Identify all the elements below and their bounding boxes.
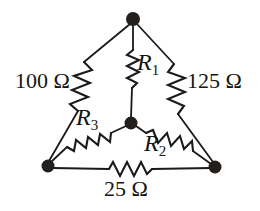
bottom-left-node [42,160,55,173]
wire-bottomleft-to-bottom-resistor [53,168,109,169]
wire-left-resistor-to-bottomleft [49,111,78,161]
circuit-diagram-figure: 100 Ω 125 Ω 25 Ω R1 R2 R3 [0,0,260,211]
resistor-zigzag-125ohm [168,64,185,114]
label-bottom-resistor-value: 25 Ω [104,178,148,200]
label-right-resistor-value: 125 Ω [187,70,242,92]
top-node [126,12,140,26]
label-r2-symbol: R [144,130,159,156]
label-inner-resistor-r2: R2 [144,131,166,159]
label-r1-symbol: R [137,49,152,75]
resistor-zigzag-25ohm [109,162,152,176]
label-inner-resistor-r1: R1 [137,50,159,78]
label-inner-resistor-r3: R3 [76,105,98,133]
branch-bottom-25ohm [53,162,211,176]
bottom-right-node [209,161,222,174]
label-left-resistor-value: 100 Ω [15,70,70,92]
wire-top-to-left-resistor [84,24,130,62]
wire-right-resistor-to-bottomright [178,114,213,162]
wire-r1-to-center [131,88,132,118]
resistor-zigzag-r3 [67,133,111,151]
label-r3-subscript: 3 [91,117,99,133]
label-r1-subscript: 1 [152,62,160,78]
label-r3-symbol: R [76,104,91,130]
wire-r2-to-bottomright [193,151,211,164]
wire-center-to-r3 [111,126,126,133]
label-r2-subscript: 2 [159,143,167,159]
wire-bottom-resistor-to-bottomright [152,168,211,169]
center-node [125,117,138,130]
